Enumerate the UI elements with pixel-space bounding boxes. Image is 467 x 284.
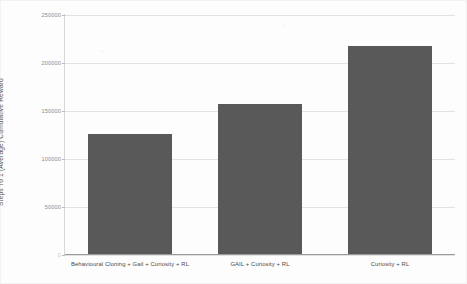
plot-area: 050000100000150000200000250000 bbox=[65, 15, 455, 255]
y-tick-label: 150000 bbox=[42, 108, 61, 114]
x-axis-baseline bbox=[65, 254, 455, 255]
x-category-label: Behavioural Cloning + Gail + Curiosity +… bbox=[71, 261, 189, 267]
y-tick-label: 100000 bbox=[42, 156, 61, 162]
bar bbox=[88, 134, 172, 255]
y-gridline bbox=[65, 255, 455, 256]
y-tick-label: 250000 bbox=[42, 12, 61, 18]
y-tick-label: 50000 bbox=[45, 204, 61, 210]
y-tick-mark bbox=[62, 111, 65, 112]
y-tick-mark bbox=[62, 159, 65, 160]
x-category-label: Curiosity + RL bbox=[371, 261, 410, 267]
bar-chart-figure: Steps To 1 (Average) Cumulative Reward 0… bbox=[0, 0, 467, 284]
y-gridline bbox=[65, 15, 455, 16]
bar bbox=[348, 46, 432, 255]
y-tick-mark bbox=[62, 207, 65, 208]
bar bbox=[218, 104, 302, 255]
y-tick-label: 0 bbox=[58, 252, 61, 258]
y-axis-title: Steps To 1 (Average) Cumulative Reward bbox=[0, 0, 22, 284]
y-tick-mark bbox=[62, 255, 65, 256]
y-tick-label: 200000 bbox=[42, 60, 61, 66]
x-category-label: GAIL + Curiosity + RL bbox=[230, 261, 289, 267]
y-tick-mark bbox=[62, 15, 65, 16]
y-tick-mark bbox=[62, 63, 65, 64]
